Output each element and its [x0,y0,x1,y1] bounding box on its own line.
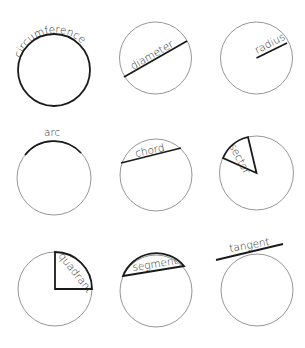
tangent-figure: tangent [216,235,293,326]
chord-figure: chord [120,139,192,211]
tangent-circle [221,254,293,326]
quadrant-figure: quadrant [18,250,95,326]
circumference-figure: circumference [11,23,90,106]
diameter-label: diameter [128,37,176,72]
arc-label: arc [44,126,61,138]
sector-figure: sector [220,136,294,210]
arc-highlight [25,141,81,155]
radius-figure: radius [221,22,293,94]
circumference-label: circumference [11,23,88,59]
segment-figure: segment [120,253,192,327]
arc-figure: arc [17,126,91,215]
diameter-figure: diameter [120,22,192,94]
circle-parts-diagram: circumference diameter radius arc chord … [0,0,305,348]
